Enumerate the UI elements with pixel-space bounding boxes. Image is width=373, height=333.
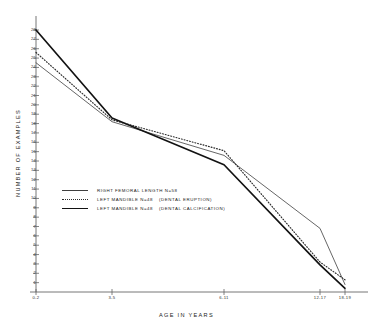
legend-item-calcification: LEFT MANDIBLE N=48 (DENTAL CALCIFICATION… (60, 204, 225, 213)
x-axis-title: AGE IN YEARS (0, 312, 373, 318)
legend-label-eruption: LEFT MANDIBLE N=48 (97, 197, 153, 202)
x-axis-tick-label: 0-2 (32, 295, 39, 300)
legend-label-calcification: LEFT MANDIBLE N=48 (97, 206, 153, 211)
x-axis-tick-label: 18-19 (339, 295, 351, 300)
legend-item-eruption: LEFT MANDIBLE N=48 (DENTAL ERUPTION) (60, 195, 225, 204)
x-axis-tick-label: 6-11 (219, 295, 228, 300)
legend-swatch-thin-line (60, 186, 90, 195)
chart-legend: RIGHT FEMORAL LENGTH N=58 LEFT MANDIBLE … (60, 186, 225, 213)
y-axis-title: NUMBER OF EXAMPLES (15, 88, 21, 218)
legend-paren-calcification: (DENTAL CALCIFICATION) (159, 206, 225, 211)
x-axis-tick-label: 12-17 (314, 295, 326, 300)
legend-label-femoral: RIGHT FEMORAL LENGTH N=58 (97, 188, 177, 193)
x-axis-tick-label: 3-5 (108, 295, 115, 300)
legend-paren-eruption: (DENTAL ERUPTION) (159, 197, 212, 202)
x-axis-tick-labels: 0-23-56-1112-1718-19 (0, 0, 373, 333)
legend-item-femoral: RIGHT FEMORAL LENGTH N=58 (60, 186, 225, 195)
legend-swatch-dotted-line (60, 195, 90, 204)
chart-figure: 2827262524232221201918171615141312111098… (0, 0, 373, 333)
legend-swatch-bold-line (60, 204, 90, 213)
